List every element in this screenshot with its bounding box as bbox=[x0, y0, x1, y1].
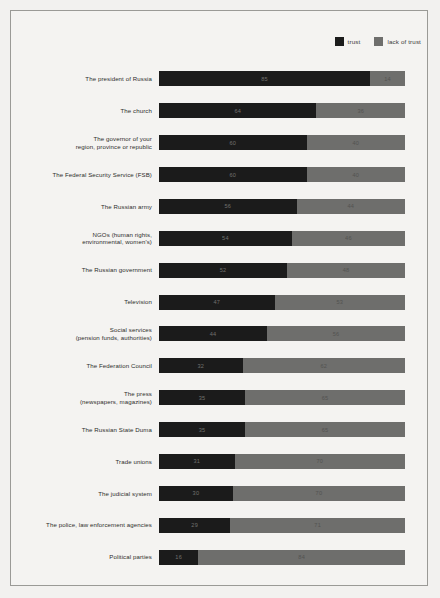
chart-bar-row: Political parties1684 bbox=[11, 550, 429, 565]
bar-value-label: 35 bbox=[199, 427, 206, 433]
bar-segment-trust[interactable]: 60 bbox=[159, 135, 307, 150]
bar-segment-trust[interactable]: 32 bbox=[159, 358, 243, 373]
category-label: The church bbox=[11, 107, 159, 115]
bar-value-label: 44 bbox=[348, 203, 355, 209]
chart-bar-row: The governor of your region, province or… bbox=[11, 135, 429, 150]
category-label: The Russian government bbox=[11, 266, 159, 274]
bar-segment-lack-of-trust[interactable]: 53 bbox=[275, 295, 405, 310]
bar-segment-lack-of-trust[interactable]: 36 bbox=[316, 103, 405, 118]
bar-value-label: 29 bbox=[191, 522, 198, 528]
bar-segment-trust[interactable]: 60 bbox=[159, 167, 307, 182]
chart-legend: trustlack of trust bbox=[11, 33, 429, 49]
chart-bar-row: The judicial system3070 bbox=[11, 486, 429, 501]
bar-segment-trust[interactable]: 85 bbox=[159, 71, 370, 86]
category-label: The judicial system bbox=[11, 490, 159, 498]
bar-segment-lack-of-trust[interactable]: 40 bbox=[307, 167, 405, 182]
category-label: The Russian army bbox=[11, 203, 159, 211]
bar-segment-lack-of-trust[interactable]: 56 bbox=[267, 326, 405, 341]
bar-track: 3170 bbox=[159, 454, 405, 469]
bar-segment-lack-of-trust[interactable]: 65 bbox=[245, 390, 405, 405]
chart-bar-row: Social services (pension funds, authorit… bbox=[11, 326, 429, 341]
category-label: The Federation Council bbox=[11, 362, 159, 370]
category-label: The Federal Security Service (FSB) bbox=[11, 171, 159, 179]
bar-value-label: 65 bbox=[322, 427, 329, 433]
bar-segment-trust[interactable]: 29 bbox=[159, 518, 230, 533]
category-label: Political parties bbox=[11, 553, 159, 561]
chart-bar-row: The Russian State Duma3565 bbox=[11, 422, 429, 437]
bar-track: 5248 bbox=[159, 263, 405, 278]
bar-value-label: 71 bbox=[314, 522, 321, 528]
bar-segment-trust[interactable]: 35 bbox=[159, 390, 245, 405]
category-label: Trade unions bbox=[11, 458, 159, 466]
bar-track: 6040 bbox=[159, 135, 405, 150]
chart-bar-row: The church6436 bbox=[11, 103, 429, 118]
bar-segment-lack-of-trust[interactable]: 70 bbox=[233, 486, 405, 501]
bar-segment-lack-of-trust[interactable]: 84 bbox=[198, 550, 405, 565]
bar-segment-lack-of-trust[interactable]: 14 bbox=[370, 71, 405, 86]
bar-value-label: 47 bbox=[213, 299, 220, 305]
bar-segment-lack-of-trust[interactable]: 65 bbox=[245, 422, 405, 437]
bar-segment-trust[interactable]: 30 bbox=[159, 486, 233, 501]
chart-bar-row: The president of Russia8514 bbox=[11, 71, 429, 86]
bar-track: 4753 bbox=[159, 295, 405, 310]
bar-track: 3565 bbox=[159, 390, 405, 405]
legend-swatch-lack-of-trust bbox=[374, 37, 383, 46]
bar-value-label: 44 bbox=[210, 331, 217, 337]
bar-segment-lack-of-trust[interactable]: 71 bbox=[230, 518, 405, 533]
chart-bar-row: The Russian government5248 bbox=[11, 263, 429, 278]
bar-track: 6436 bbox=[159, 103, 405, 118]
bar-value-label: 35 bbox=[199, 395, 206, 401]
legend-entry[interactable]: trust bbox=[335, 37, 361, 46]
bar-segment-trust[interactable]: 64 bbox=[159, 103, 316, 118]
bar-segment-trust[interactable]: 16 bbox=[159, 550, 198, 565]
bar-value-label: 48 bbox=[343, 267, 350, 273]
bar-value-label: 62 bbox=[321, 363, 328, 369]
bar-segment-trust[interactable]: 35 bbox=[159, 422, 245, 437]
bar-value-label: 14 bbox=[384, 76, 391, 82]
bar-value-label: 32 bbox=[198, 363, 205, 369]
category-label: Television bbox=[11, 298, 159, 306]
bar-segment-lack-of-trust[interactable]: 44 bbox=[297, 199, 405, 214]
bar-value-label: 60 bbox=[229, 172, 236, 178]
legend-entry[interactable]: lack of trust bbox=[374, 37, 421, 46]
bar-segment-trust[interactable]: 31 bbox=[159, 454, 235, 469]
bar-segment-lack-of-trust[interactable]: 46 bbox=[292, 231, 405, 246]
bar-segment-trust[interactable]: 47 bbox=[159, 295, 275, 310]
category-label: NGOs (human rights, environmental, women… bbox=[11, 231, 159, 246]
bar-value-label: 46 bbox=[345, 235, 352, 241]
bar-segment-lack-of-trust[interactable]: 40 bbox=[307, 135, 405, 150]
bar-value-label: 31 bbox=[193, 458, 200, 464]
legend-label: lack of trust bbox=[387, 38, 421, 45]
bar-value-label: 56 bbox=[333, 331, 340, 337]
bar-segment-lack-of-trust[interactable]: 62 bbox=[243, 358, 405, 373]
chart-bar-row: The Federation Council3262 bbox=[11, 358, 429, 373]
bar-value-label: 40 bbox=[352, 140, 359, 146]
bar-track: 3070 bbox=[159, 486, 405, 501]
bar-segment-lack-of-trust[interactable]: 70 bbox=[235, 454, 405, 469]
bar-segment-lack-of-trust[interactable]: 48 bbox=[287, 263, 405, 278]
bar-track: 4456 bbox=[159, 326, 405, 341]
bar-segment-trust[interactable]: 56 bbox=[159, 199, 297, 214]
bar-track: 5446 bbox=[159, 231, 405, 246]
chart-plot-area: The president of Russia8514The church643… bbox=[11, 55, 429, 583]
chart-bar-row: The police, law enforcement agencies2971 bbox=[11, 518, 429, 533]
category-label: The president of Russia bbox=[11, 75, 159, 83]
category-label: Social services (pension funds, authorit… bbox=[11, 326, 159, 341]
bar-value-label: 85 bbox=[261, 76, 268, 82]
bar-value-label: 30 bbox=[193, 490, 200, 496]
bar-value-label: 60 bbox=[229, 140, 236, 146]
bar-value-label: 53 bbox=[336, 299, 343, 305]
bar-value-label: 70 bbox=[316, 490, 323, 496]
bar-track: 2971 bbox=[159, 518, 405, 533]
bar-value-label: 54 bbox=[222, 235, 229, 241]
category-label: The governor of your region, province or… bbox=[11, 135, 159, 150]
bar-track: 3262 bbox=[159, 358, 405, 373]
bar-segment-trust[interactable]: 54 bbox=[159, 231, 292, 246]
bar-segment-trust[interactable]: 52 bbox=[159, 263, 287, 278]
bar-value-label: 65 bbox=[322, 395, 329, 401]
bar-value-label: 84 bbox=[298, 554, 305, 560]
chart-bar-row: The press (newspapers, magazines)3565 bbox=[11, 390, 429, 405]
bar-value-label: 56 bbox=[225, 203, 232, 209]
bar-segment-trust[interactable]: 44 bbox=[159, 326, 267, 341]
bar-value-label: 52 bbox=[220, 267, 227, 273]
